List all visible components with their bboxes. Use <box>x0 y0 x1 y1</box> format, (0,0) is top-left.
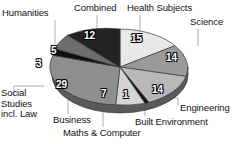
slice-value-science: 14 <box>166 52 177 63</box>
slice-label-science: Science <box>190 17 223 28</box>
slice-label-engineering: Engineering <box>180 103 230 114</box>
slice-value-social-studies: 3 <box>36 58 42 69</box>
slice-value-maths-computer: 7 <box>101 88 107 99</box>
slice-label-health-subjects: Health Subjects <box>127 3 192 14</box>
slice-label-combined: Combined <box>74 3 117 14</box>
slice-label-business: Business <box>53 115 91 126</box>
slice-label-social-studies-line3: incl. Law <box>1 108 37 119</box>
slice-label-social-studies-line1: Social <box>1 87 26 98</box>
slice-value-engineering: 14 <box>152 84 163 95</box>
slice-label-social-studies: Social Studies incl. Law <box>1 88 49 120</box>
slice-value-health-subjects: 15 <box>131 33 142 44</box>
slice-value-built-environment: 1 <box>123 89 129 100</box>
slice-value-business: 29 <box>56 79 67 90</box>
slice-label-social-studies-line2: Studies <box>1 98 32 109</box>
slice-value-combined: 12 <box>84 30 95 41</box>
slice-value-humanities: 5 <box>51 45 57 56</box>
pie-chart: Humanities Combined Health Subjects Scie… <box>0 0 243 144</box>
slice-label-maths-computer: Maths & Computer <box>63 128 141 139</box>
slice-label-humanities: Humanities <box>2 8 49 19</box>
slice-label-built-environment: Built Environment <box>135 117 208 128</box>
pie-slices <box>50 28 188 105</box>
